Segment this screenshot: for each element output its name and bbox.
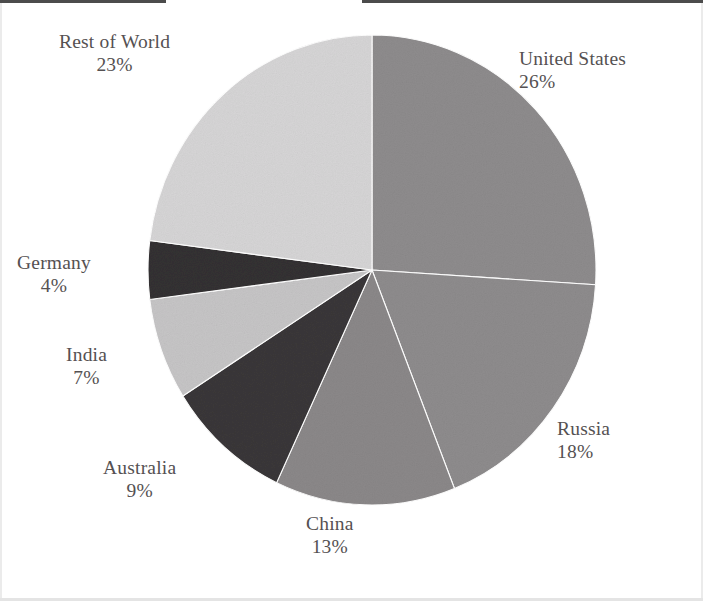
pie-label-united-states: United States 26%: [519, 47, 626, 93]
pie-label-name-rest-of-world: Rest of World: [59, 30, 170, 53]
pie-chart: United States 26% Russia 18% China 13% A…: [0, 0, 703, 601]
pie-label-name-russia: Russia: [557, 417, 610, 440]
pie-label-name-india: India: [66, 343, 107, 366]
pie-slice-group: [148, 35, 596, 505]
pie-label-value-united-states: 26%: [519, 70, 626, 93]
pie-label-name-united-states: United States: [519, 47, 626, 70]
pie-label-russia: Russia 18%: [557, 417, 610, 463]
pie-label-value-india: 7%: [66, 366, 107, 389]
scan-edge-top-left: [0, 0, 166, 3]
pie-label-india: India 7%: [66, 343, 107, 389]
pie-label-value-russia: 18%: [557, 440, 610, 463]
scan-edge-left: [0, 3, 2, 598]
pie-label-value-australia: 9%: [103, 479, 176, 502]
pie-label-value-rest-of-world: 23%: [59, 53, 170, 76]
scan-edge-top-right: [362, 0, 703, 3]
pie-label-value-china: 13%: [306, 535, 354, 558]
pie-label-name-china: China: [306, 512, 354, 535]
pie-slice-rest-of-world: [150, 35, 372, 270]
pie-label-value-germany: 4%: [17, 274, 91, 297]
pie-label-rest-of-world: Rest of World 23%: [59, 30, 170, 76]
pie-label-china: China 13%: [306, 512, 354, 558]
pie-label-germany: Germany 4%: [17, 251, 91, 297]
pie-label-australia: Australia 9%: [103, 456, 176, 502]
pie-label-name-australia: Australia: [103, 456, 176, 479]
pie-label-name-germany: Germany: [17, 251, 91, 274]
